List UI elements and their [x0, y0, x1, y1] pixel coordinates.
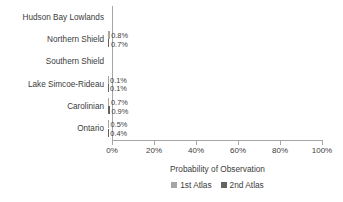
bar [108, 39, 109, 47]
x-axis-tick [196, 141, 197, 145]
bar-data-label: 0.1% [110, 77, 127, 84]
chart-legend: 1st Atlas2nd Atlas [112, 180, 323, 190]
bar-data-label: 0.1% [110, 85, 127, 92]
x-axis-tick-label: 60% [230, 146, 246, 155]
bar-track: 0.5% [108, 120, 318, 128]
x-axis-tick [322, 141, 323, 145]
bar-track [108, 53, 318, 61]
bar-track [108, 17, 318, 25]
bar-track: 0.7% [108, 98, 318, 106]
bar-track [108, 62, 318, 70]
legend-item[interactable]: 1st Atlas [171, 180, 211, 190]
x-axis-tick [238, 141, 239, 145]
bar-data-label: 0.7% [111, 99, 128, 106]
bar-data-label: 0.7% [111, 41, 128, 48]
bar [108, 106, 110, 114]
bar [108, 31, 110, 39]
bar-data-label: 0.8% [111, 32, 128, 39]
bar-track: 0.1% [108, 76, 318, 84]
x-axis-tick [154, 141, 155, 145]
bar-track [108, 9, 318, 17]
bar-data-label: 0.4% [110, 130, 127, 137]
x-axis-tick-label: 40% [188, 146, 204, 155]
x-axis-title: Probability of Observation [112, 164, 323, 174]
chart-row: Northern Shield0.8%0.7% [0, 28, 343, 50]
bar-track: 0.8% [108, 31, 318, 39]
bar-group [108, 51, 319, 73]
legend-swatch-icon [221, 182, 227, 188]
x-axis-tick-label: 80% [272, 146, 288, 155]
x-axis-tick-label: 20% [146, 146, 162, 155]
x-axis-line [112, 140, 323, 141]
bar-data-label: 0.5% [111, 121, 128, 128]
bar [108, 120, 109, 128]
x-axis-tick [112, 141, 113, 145]
chart-row: Hudson Bay Lowlands [0, 6, 343, 28]
legend-label: 1st Atlas [180, 180, 211, 190]
legend-label: 2nd Atlas [230, 180, 264, 190]
chart-rows: Hudson Bay LowlandsNorthern Shield0.8%0.… [0, 6, 343, 140]
x-axis-tick [280, 141, 281, 145]
bar [108, 98, 109, 106]
category-label: Lake Simcoe-Rideau [0, 80, 108, 89]
category-label: Hudson Bay Lowlands [0, 13, 108, 22]
bar [108, 129, 109, 137]
bar-chart: Hudson Bay LowlandsNorthern Shield0.8%0.… [0, 0, 343, 202]
bar-track: 0.9% [108, 106, 318, 114]
x-axis-tick-label: 100% [312, 146, 332, 155]
bar [108, 76, 109, 84]
chart-row: Lake Simcoe-Rideau0.1%0.1% [0, 73, 343, 95]
x-axis-tick-labels: 0%20%40%60%80%100% [0, 146, 343, 158]
bar-group [108, 6, 319, 28]
legend-swatch-icon [171, 182, 177, 188]
category-label: Ontario [0, 124, 108, 133]
bar-track: 0.1% [108, 84, 318, 92]
chart-row: Southern Shield [0, 51, 343, 73]
chart-row: Ontario0.5%0.4% [0, 118, 343, 140]
category-label: Northern Shield [0, 35, 108, 44]
legend-item[interactable]: 2nd Atlas [221, 180, 264, 190]
category-label: Carolinian [0, 102, 108, 111]
bar-track: 0.7% [108, 39, 318, 47]
chart-row: Carolinian0.7%0.9% [0, 95, 343, 117]
bar-group: 0.1%0.1% [108, 73, 319, 95]
category-label: Southern Shield [0, 57, 108, 66]
bar [108, 84, 109, 92]
bar-group: 0.5%0.4% [108, 118, 319, 140]
x-axis-tick-label: 0% [106, 146, 118, 155]
bar-data-label: 0.9% [111, 108, 128, 115]
bar-track: 0.4% [108, 129, 318, 137]
bar-group: 0.7%0.9% [108, 95, 319, 117]
bar-group: 0.8%0.7% [108, 28, 319, 50]
